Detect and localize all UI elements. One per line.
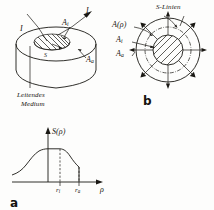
label-conducting-medium-line1: Leitendes: [17, 92, 45, 99]
panel-letter-b: b: [143, 95, 152, 107]
label-tick-r-inner: ri: [56, 187, 60, 194]
leader-s-linien: [164, 16, 184, 28]
label-current-right: I: [86, 7, 89, 15]
label-y-axis-s-rho: S(ρ): [52, 128, 66, 136]
label-tick-r-outer: ra: [75, 187, 80, 194]
label-a-outer: Aa: [116, 50, 124, 59]
panel-cylinder-perspective: I Ai I Aa S Leitendes Medium: [0, 0, 112, 112]
label-current-left: I: [20, 25, 23, 33]
label-a-rho: A(ρ): [112, 21, 126, 29]
panel-a-profile-plot: S(ρ) ri ra ρ a: [0, 118, 120, 210]
radial-s-line-arrows: [129, 11, 207, 89]
y-axis: [45, 127, 50, 182]
circle-inner-hole: [153, 35, 183, 65]
label-conducting-medium-line2: Medium: [21, 101, 45, 108]
curve-s-rho: [12, 149, 79, 182]
x-axis: [12, 179, 103, 184]
panel-letter-a: a: [10, 197, 18, 209]
panel-b-cross-section: S-Linien A(ρ) Ai Aa b: [112, 0, 214, 118]
label-a-inner: Ai: [116, 36, 123, 45]
cross-section-drawing: [112, 0, 214, 118]
figure-canvas: I Ai I Aa S Leitendes Medium: [0, 0, 214, 210]
label-x-axis-rho: ρ: [100, 186, 104, 194]
label-vector-s: S: [44, 52, 47, 58]
leaders-area-labels: [132, 27, 155, 56]
cylinder-side-wall: [16, 44, 96, 88]
label-area-inner: Ai: [62, 19, 69, 28]
label-s-linien: S-Linien: [156, 4, 181, 11]
label-area-outer: Aa: [86, 56, 94, 65]
